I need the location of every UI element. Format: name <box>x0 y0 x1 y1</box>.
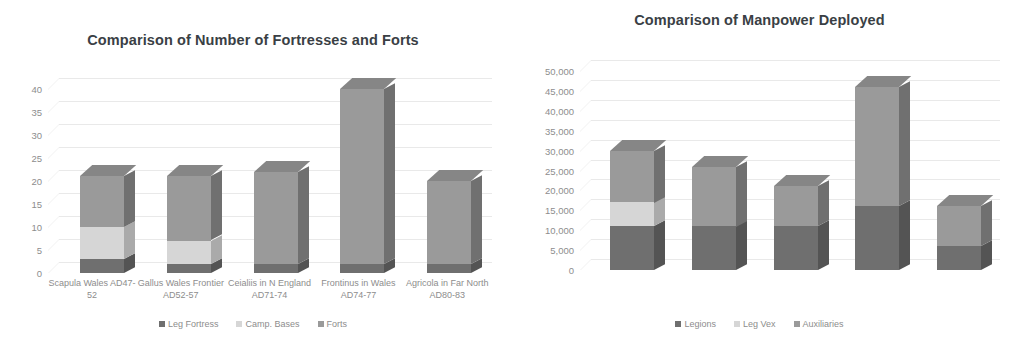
bar-segment-face <box>80 176 124 227</box>
bar-column[interactable] <box>610 71 654 270</box>
bar-segment-face <box>254 172 298 264</box>
y-axis-tick: 0 <box>37 268 42 279</box>
bar-segment-side <box>471 175 482 264</box>
bar-segment-side <box>298 166 309 264</box>
bar-series-manpower[interactable] <box>580 60 1000 270</box>
bar-segment[interactable] <box>340 264 384 273</box>
legend-item[interactable]: Leg Fortress <box>159 318 219 329</box>
y-axis-tick: 25,000 <box>545 165 574 176</box>
bar-segment-face <box>937 246 981 270</box>
bar-segment-face <box>340 264 384 273</box>
bar-column[interactable] <box>254 89 298 273</box>
bar-segment[interactable] <box>167 241 211 264</box>
bar-segment-face <box>610 202 654 226</box>
bar-segment[interactable] <box>610 226 654 270</box>
legend-label: Leg Fortress <box>168 319 219 329</box>
bar-segment[interactable] <box>80 259 124 273</box>
bar-column[interactable] <box>937 71 981 270</box>
bar-segment-side <box>736 220 747 270</box>
bar-segment-face <box>427 264 471 273</box>
bar-segment-side <box>818 181 829 227</box>
bar-segment[interactable] <box>692 226 736 270</box>
y-axis-tick: 30 <box>31 130 42 141</box>
y-axis-tick: 50,000 <box>545 66 574 77</box>
bar-segment[interactable] <box>427 264 471 273</box>
bar-segment[interactable] <box>80 227 124 259</box>
y-axis-tick: 35 <box>31 107 42 118</box>
x-axis-category-label: Ceialiis in N England AD71-74 <box>226 278 314 301</box>
x-axis-category-label: Scapula Wales AD47-52 <box>48 278 136 301</box>
legend-swatch-icon <box>675 321 681 327</box>
bar-segment[interactable] <box>254 172 298 264</box>
legend-label: Leg Vex <box>743 319 776 329</box>
bar-segment-face <box>610 151 654 203</box>
bar-column[interactable] <box>80 89 124 273</box>
bar-segment-side <box>818 220 829 270</box>
legend-item[interactable]: Legions <box>675 318 716 329</box>
chart-title-fortresses: Comparison of Number of Fortresses and F… <box>0 32 506 48</box>
bar-column[interactable] <box>427 89 471 273</box>
bar-column[interactable] <box>855 71 899 270</box>
bar-segment-face <box>610 226 654 270</box>
legend-swatch-icon <box>794 321 800 327</box>
bar-column[interactable] <box>774 71 818 270</box>
plot-area-manpower: 05,00010,00015,00020,00025,00030,00035,0… <box>530 60 1000 270</box>
bar-segment[interactable] <box>610 202 654 226</box>
y-axis-labels-manpower: 05,00010,00015,00020,00025,00030,00035,0… <box>530 60 574 270</box>
legend-label: Legions <box>684 319 716 329</box>
y-axis-tick: 35,000 <box>545 125 574 136</box>
y-axis-labels-fortresses: 0510152025303540 <box>12 78 42 273</box>
bar-segment-face <box>427 181 471 264</box>
legend-swatch-icon <box>318 321 324 327</box>
bar-segment[interactable] <box>855 206 899 270</box>
bar-segment[interactable] <box>855 87 899 206</box>
bar-segment-side <box>654 220 665 270</box>
x-axis-category-label: Gallus Wales Frontier AD52-57 <box>137 278 225 301</box>
y-axis-tick: 10,000 <box>545 225 574 236</box>
y-axis-tick: 10 <box>31 222 42 233</box>
bar-segment-face <box>167 176 211 240</box>
bar-segment[interactable] <box>254 264 298 273</box>
bar-segment-side <box>981 200 992 246</box>
legend-manpower[interactable]: LegionsLeg VexAuxiliaries <box>506 318 1013 329</box>
bar-segment-side <box>899 200 910 270</box>
x-axis-category-label: Agricola in Far North AD80-83 <box>403 278 491 301</box>
bar-segment[interactable] <box>774 226 818 270</box>
chart-fortresses[interactable]: Comparison of Number of Fortresses and F… <box>0 0 506 341</box>
bar-column[interactable] <box>340 89 384 273</box>
bar-segment[interactable] <box>167 176 211 240</box>
legend-swatch-icon <box>236 321 242 327</box>
bar-segment[interactable] <box>774 186 818 226</box>
legend-item[interactable]: Leg Vex <box>734 318 776 329</box>
plot-area-fortresses: 0510152025303540 <box>12 78 492 273</box>
bar-segment-face <box>937 206 981 246</box>
x-axis-category-label: Frontinus in Wales AD74-77 <box>314 278 402 301</box>
legend-item[interactable]: Camp. Bases <box>236 318 299 329</box>
legend-item[interactable]: Forts <box>318 318 348 329</box>
bar-segment-face <box>80 227 124 259</box>
bar-segment[interactable] <box>610 151 654 203</box>
y-axis-tick: 20,000 <box>545 185 574 196</box>
bar-segment[interactable] <box>340 89 384 264</box>
legend-label: Camp. Bases <box>245 319 299 329</box>
bar-segment-side <box>124 171 135 227</box>
bar-column[interactable] <box>167 89 211 273</box>
bar-segment-face <box>774 226 818 270</box>
bar-segment[interactable] <box>937 246 981 270</box>
bar-segment[interactable] <box>167 264 211 273</box>
bar-segment[interactable] <box>80 176 124 227</box>
bar-segment[interactable] <box>427 181 471 264</box>
bar-segment[interactable] <box>692 167 736 227</box>
legend-item[interactable]: Auxiliaries <box>794 318 844 329</box>
y-axis-tick: 25 <box>31 153 42 164</box>
legend-fortresses[interactable]: Leg FortressCamp. BasesForts <box>0 318 506 329</box>
bar-segment-side <box>211 171 222 241</box>
bar-segment[interactable] <box>937 206 981 246</box>
legend-swatch-icon <box>159 321 165 327</box>
chart-manpower[interactable]: Comparison of Manpower Deployed 05,00010… <box>506 0 1013 341</box>
bar-segment-face <box>167 264 211 273</box>
bar-series-fortresses[interactable] <box>48 78 492 273</box>
bar-segment-face <box>774 186 818 226</box>
y-axis-tick: 5 <box>37 245 42 256</box>
bar-column[interactable] <box>692 71 736 270</box>
